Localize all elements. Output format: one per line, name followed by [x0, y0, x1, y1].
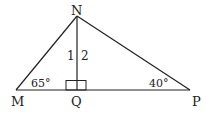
- diagram-canvas: N M Q P 65° 40° 1 2: [0, 0, 206, 114]
- angle-label-p: 40°: [149, 77, 169, 90]
- segment-np: [77, 16, 190, 90]
- angle-label-1: 1: [67, 49, 75, 63]
- vertex-label-q: Q: [71, 94, 82, 109]
- vertex-label-m: M: [11, 94, 24, 109]
- angle-label-m: 65°: [31, 77, 51, 90]
- vertex-label-p: P: [192, 94, 201, 109]
- triangle-diagram: N M Q P 65° 40° 1 2: [0, 0, 206, 114]
- angle-label-2: 2: [81, 49, 89, 63]
- vertex-label-n: N: [71, 3, 82, 18]
- right-angle-marker: [66, 81, 86, 91]
